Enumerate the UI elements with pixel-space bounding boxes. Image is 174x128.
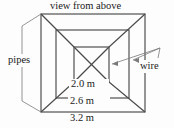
- wire-label: wire: [140, 61, 159, 72]
- diagonal-bottom-right: [109, 82, 145, 112]
- dimension-label-middle: 2.6 m: [70, 96, 94, 107]
- dimension-label-inner: 2.0 m: [71, 79, 95, 90]
- figure-title: view from above: [50, 1, 121, 12]
- dimension-label-outer: 3.2 m: [70, 113, 94, 124]
- figure-diagram-view-from-above: view from above pipes wire 2.0 m 2.6 m 3…: [0, 0, 174, 128]
- pipes-label: pipes: [8, 55, 30, 66]
